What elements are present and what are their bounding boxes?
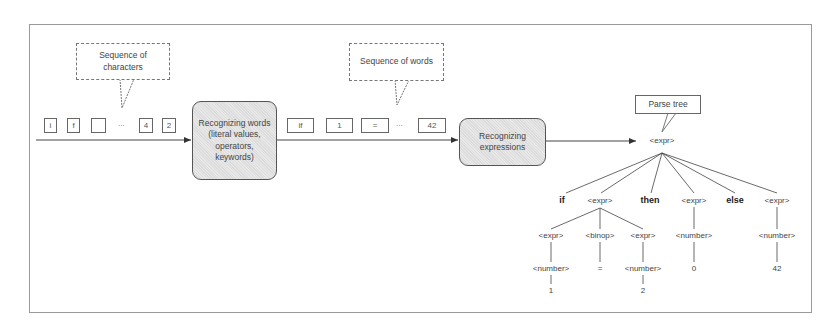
tree-leaf-1: 1 [549,286,553,295]
tree-keyword-if: if [559,195,565,205]
tree-node-expr-condition: <expr> [588,196,613,205]
callout-parse-tree: Parse tree [635,95,701,114]
ellipsis: ... [396,119,403,128]
tree-node-expr-else: <expr> [765,196,790,205]
word-token: 42 [418,118,446,133]
tree-keyword-then: then [641,195,660,205]
tree-node-binop: <binop> [586,231,615,240]
char-token: 2 [162,118,176,133]
tree-leaf-42: 42 [773,264,782,273]
callout-sequence-of-characters: Sequence of characters [76,43,170,80]
tree-leaf-2: 2 [641,286,645,295]
char-token: 4 [139,118,153,133]
word-token: = [361,118,389,133]
word-token: if [287,118,314,133]
stage-recognizing-expressions: Recognizing expressions [459,118,546,166]
stage-recognizing-words: Recognizing words (literal values, opera… [192,101,277,180]
tree-keyword-else: else [726,195,744,205]
word-token: 1 [326,118,353,133]
ellipsis: ... [118,119,125,128]
tree-node-number-right: <number> [625,264,661,273]
tree-node-expr-then: <expr> [682,196,707,205]
tree-node-number-left: <number> [533,264,569,273]
tree-node-number-else: <number> [759,231,795,240]
char-token: f [67,118,80,133]
callout-sequence-of-words: Sequence of words [349,43,444,81]
tree-leaf-0: 0 [692,264,696,273]
tree-node-expr-right: <expr> [631,231,656,240]
tree-node-number-then: <number> [676,231,712,240]
tree-node-expr-left: <expr> [539,231,564,240]
tree-root-expr: <expr> [650,136,675,145]
char-token: i [44,118,57,133]
char-token-space [91,118,106,133]
tree-leaf-equals: = [598,264,603,273]
